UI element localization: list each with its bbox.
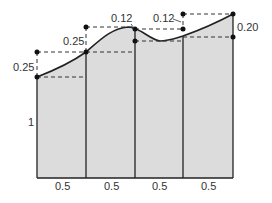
label-third-increment: 0.12 [111, 12, 132, 24]
label-width-1: 0.5 [55, 180, 70, 192]
label-width-4: 0.5 [201, 180, 216, 192]
label-width-3: 0.5 [152, 180, 167, 192]
label-second-increment: 0.25 [63, 35, 84, 47]
label-base-height: 1 [28, 116, 34, 128]
label-fourth-increment: 0.12 [153, 12, 174, 24]
label-right-increment: 0.20 [237, 21, 258, 33]
label-width-2: 0.5 [104, 180, 119, 192]
area-diagram: 0.25 0.25 0.12 0.12 0.20 1 0.5 0.5 0.5 0… [0, 0, 272, 203]
label-left-increment: 0.25 [13, 61, 34, 73]
